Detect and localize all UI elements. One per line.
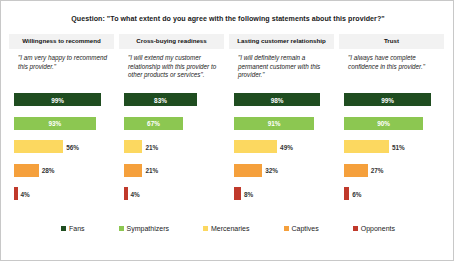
bar-row: 4% bbox=[14, 185, 114, 209]
bar bbox=[344, 187, 349, 200]
bar-value-label: 51% bbox=[392, 142, 405, 153]
bar-row: 90% bbox=[344, 115, 444, 139]
bar-row: 28% bbox=[14, 162, 114, 186]
bar-value-label: 49% bbox=[280, 142, 293, 153]
bar bbox=[344, 140, 389, 153]
column-header: Willingness to recommend bbox=[9, 34, 114, 49]
bar-value-label: 67% bbox=[124, 118, 183, 129]
column-quote: "I am very happy to recommend this provi… bbox=[9, 54, 114, 84]
bar bbox=[14, 140, 63, 153]
bar-value-label: 4% bbox=[131, 189, 140, 200]
legend-label: Fans bbox=[69, 225, 85, 232]
bar-group: 83%67%21%21%4% bbox=[124, 91, 224, 209]
bar-value-label: 99% bbox=[14, 95, 101, 106]
legend-item: Fans bbox=[61, 225, 85, 232]
column-header: Trust bbox=[339, 34, 444, 49]
bar bbox=[234, 164, 262, 177]
bar-row: 32% bbox=[234, 162, 334, 186]
bar bbox=[14, 187, 18, 200]
column-quote: "I will extend my customer relationship … bbox=[119, 54, 224, 84]
bar-row: 99% bbox=[344, 91, 444, 115]
bar-value-label: 98% bbox=[234, 95, 320, 106]
columns-area: Willingness to recommend "I am very happ… bbox=[9, 34, 447, 214]
legend-item: Sympathizers bbox=[119, 225, 169, 232]
bar bbox=[124, 164, 142, 177]
column-header-label: Willingness to recommend bbox=[20, 38, 103, 45]
chart-title: Question: "To what extent do you agree w… bbox=[1, 15, 454, 23]
bar bbox=[234, 140, 277, 153]
bar-value-label: 8% bbox=[244, 189, 253, 200]
chart-legend: FansSympathizersMercenariesCaptivesOppon… bbox=[1, 225, 454, 232]
legend-swatch-icon bbox=[203, 226, 208, 231]
bar-row: 6% bbox=[344, 185, 444, 209]
statement-column: Willingness to recommend "I am very happ… bbox=[9, 34, 114, 214]
bar-group: 98%91%49%32%8% bbox=[234, 91, 334, 209]
legend-swatch-icon bbox=[61, 226, 66, 231]
legend-label: Captives bbox=[292, 225, 319, 232]
bar-row: 83% bbox=[124, 91, 224, 115]
bar-group: 99%93%56%28%4% bbox=[14, 91, 114, 209]
legend-swatch-icon bbox=[119, 226, 124, 231]
bar-value-label: 56% bbox=[66, 142, 79, 153]
column-header: Lasting customer relationship bbox=[229, 34, 334, 49]
bar-value-label: 21% bbox=[145, 142, 158, 153]
bar-group: 99%90%51%27%6% bbox=[344, 91, 444, 209]
bar-row: 56% bbox=[14, 138, 114, 162]
column-header: Cross-buying readiness bbox=[119, 34, 224, 49]
bar-value-label: 6% bbox=[352, 189, 361, 200]
bar-value-label: 99% bbox=[344, 95, 431, 106]
bar-row: 8% bbox=[234, 185, 334, 209]
chart-container: Question: "To what extent do you agree w… bbox=[0, 0, 454, 261]
bar bbox=[14, 164, 39, 177]
legend-item: Mercenaries bbox=[203, 225, 250, 232]
legend-label: Opponents bbox=[361, 225, 395, 232]
bar-row: 98% bbox=[234, 91, 334, 115]
statement-column: Trust "I always have complete confidence… bbox=[339, 34, 444, 214]
bar-row: 99% bbox=[14, 91, 114, 115]
bar-row: 49% bbox=[234, 138, 334, 162]
bar-value-label: 93% bbox=[14, 118, 96, 129]
bar bbox=[234, 187, 241, 200]
bar-value-label: 4% bbox=[21, 189, 30, 200]
legend-label: Mercenaries bbox=[211, 225, 250, 232]
bar bbox=[124, 140, 142, 153]
statement-column: Lasting customer relationship "I will de… bbox=[229, 34, 334, 214]
bar-value-label: 32% bbox=[265, 165, 278, 176]
bar-value-label: 90% bbox=[344, 118, 423, 129]
bar-row: 93% bbox=[14, 115, 114, 139]
bar bbox=[344, 164, 368, 177]
bar-value-label: 21% bbox=[145, 165, 158, 176]
column-quote: "I always have complete confidence in th… bbox=[339, 54, 444, 84]
column-quote: "I will definitely remain a permanent cu… bbox=[229, 54, 334, 84]
column-header-label: Lasting customer relationship bbox=[235, 38, 327, 45]
legend-item: Opponents bbox=[353, 225, 395, 232]
column-header-label: Trust bbox=[382, 38, 401, 45]
bar-row: 4% bbox=[124, 185, 224, 209]
legend-label: Sympathizers bbox=[127, 225, 169, 232]
bar bbox=[124, 187, 128, 200]
statement-column: Cross-buying readiness "I will extend my… bbox=[119, 34, 224, 214]
bar-value-label: 28% bbox=[42, 165, 55, 176]
column-header-label: Cross-buying readiness bbox=[134, 38, 209, 45]
bar-row: 91% bbox=[234, 115, 334, 139]
bar-value-label: 83% bbox=[124, 95, 197, 106]
bar-value-label: 91% bbox=[234, 118, 314, 129]
bar-row: 67% bbox=[124, 115, 224, 139]
legend-swatch-icon bbox=[284, 226, 289, 231]
bar-row: 27% bbox=[344, 162, 444, 186]
bar-value-label: 27% bbox=[371, 165, 384, 176]
bar-row: 21% bbox=[124, 138, 224, 162]
bar-row: 51% bbox=[344, 138, 444, 162]
bar-row: 21% bbox=[124, 162, 224, 186]
legend-item: Captives bbox=[284, 225, 319, 232]
legend-swatch-icon bbox=[353, 226, 358, 231]
